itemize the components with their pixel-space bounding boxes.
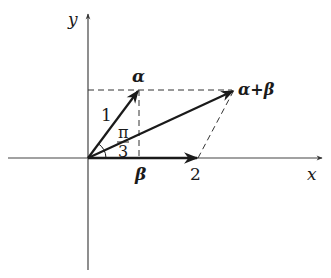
x-axis-label: x <box>307 164 317 184</box>
alpha-plus-beta-label: α+β <box>238 80 275 99</box>
vector-alpha <box>88 91 138 158</box>
vector-diagram: y x α 1 β 2 α+β π 3 <box>0 0 331 278</box>
diagram-canvas: y x α 1 β 2 α+β π 3 <box>0 0 331 278</box>
y-axis-label: y <box>67 9 78 29</box>
angle-denominator: 3 <box>118 142 128 161</box>
beta-label: β <box>134 164 146 184</box>
alpha-magnitude-label: 1 <box>101 105 112 125</box>
angle-numerator: π <box>118 123 129 142</box>
beta-magnitude-label: 2 <box>190 164 201 184</box>
dashed-parallelogram-side <box>198 90 234 158</box>
alpha-label: α <box>132 66 145 86</box>
